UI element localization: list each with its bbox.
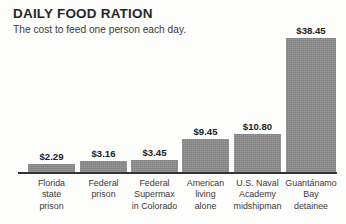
bar [131,160,178,172]
bar-group: $10.80U.S. NavalAcademymidshipman [234,0,281,224]
bar-value-label: $10.80 [226,121,289,132]
bar-category-label: GuantánamoBaydetainee [277,178,345,212]
bar-value-label: $38.45 [278,25,344,36]
bar-value-label: $3.45 [123,147,186,158]
bar [182,139,229,172]
bar-group: $3.16Federalprison [80,0,127,224]
bar-category-label-line: detainee [277,201,345,212]
bar [286,38,336,172]
bar-group: $3.45FederalSupermaxin Colorado [131,0,178,224]
bar [80,161,127,172]
plot-area: $2.29Floridastateprison$3.16Federalpriso… [0,0,346,224]
bar-category-label-line: Bay [277,189,345,200]
bar-category-label-line: Guantánamo [277,178,345,189]
bar-category-label-line: prison [19,201,84,212]
chart-container: DAILY FOOD RATION The cost to feed one p… [0,0,346,224]
bar-group: $2.29Floridastateprison [28,0,75,224]
bar-group: $9.45Americanlivingalone [182,0,229,224]
bar [234,134,281,172]
bar [28,164,75,172]
bar-group: $38.45GuantánamoBaydetainee [286,0,336,224]
